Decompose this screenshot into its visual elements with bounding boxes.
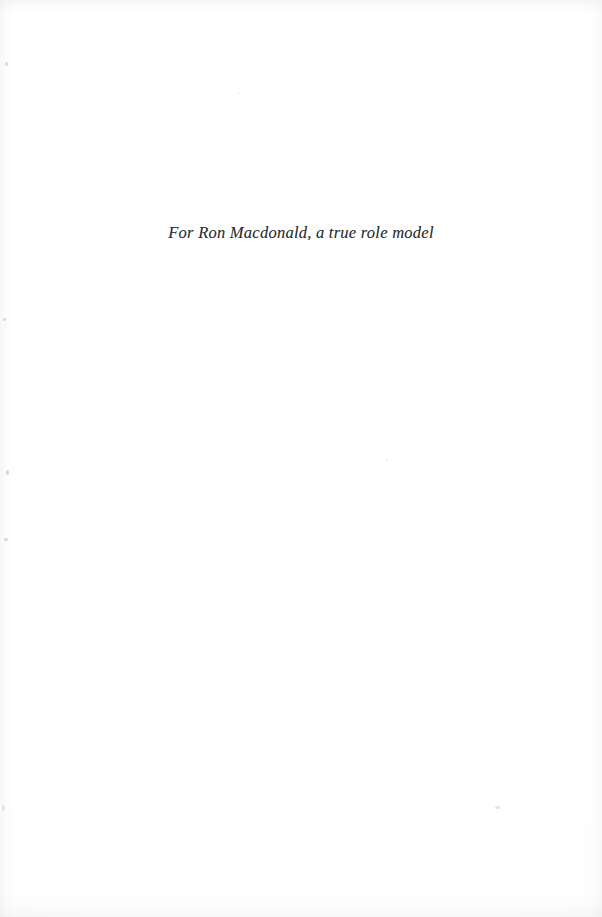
paper-tone-overlay — [0, 0, 602, 917]
scan-edge-shadow-left — [0, 0, 16, 917]
scan-speck — [3, 318, 6, 321]
dedication-block: For Ron Macdonald, a true role model — [0, 222, 602, 244]
scan-speck — [5, 62, 8, 66]
scan-edge-shadow-top — [0, 0, 602, 14]
scan-speck — [495, 806, 500, 809]
scan-edge-shadow-bottom — [0, 895, 602, 917]
scan-speck — [6, 470, 9, 475]
scan-speck — [386, 459, 388, 461]
scan-speck — [2, 805, 5, 811]
dedication-line: For Ron Macdonald, a true role model — [168, 222, 433, 244]
scan-speck — [238, 92, 240, 94]
scanned-page: For Ron Macdonald, a true role model — [0, 0, 602, 917]
scan-speck — [4, 538, 8, 541]
scan-edge-shadow-right — [582, 0, 602, 917]
